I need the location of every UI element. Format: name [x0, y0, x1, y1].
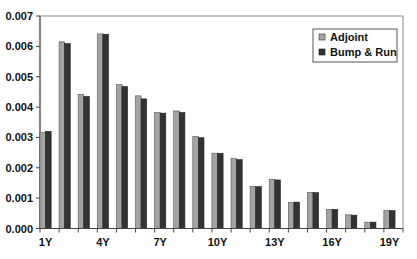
legend: Adjoint Bump & Run — [313, 29, 397, 62]
bar-chart: 0.0000.0010.0020.0030.0040.0050.0060.007… — [0, 0, 417, 259]
bar-bump-run — [275, 180, 281, 229]
bar-adjoint — [174, 111, 180, 228]
y-tick-label: 0.003 — [5, 131, 33, 143]
y-tick-label: 0.001 — [5, 192, 33, 204]
y-tick-label: 0.005 — [5, 71, 33, 83]
x-tick-label: 7Y — [153, 236, 167, 248]
legend-label-adjoint: Adjoint — [330, 31, 368, 43]
legend-swatch-adjoint — [319, 34, 325, 40]
bar-adjoint — [269, 179, 275, 228]
bar-adjoint — [307, 192, 313, 228]
bar-adjoint — [327, 209, 333, 228]
bar-adjoint — [40, 133, 46, 229]
x-tick-label: 13Y — [265, 236, 285, 248]
x-tick-label: 4Y — [96, 236, 110, 248]
bar-adjoint — [365, 222, 371, 228]
x-tick-label: 19Y — [380, 236, 400, 248]
bar-bump-run — [294, 202, 300, 228]
bar-bump-run — [198, 138, 204, 229]
bar-adjoint — [155, 113, 161, 229]
legend-swatch-bump-run — [319, 49, 325, 55]
x-axis: 1Y4Y7Y10Y13Y16Y19Y — [39, 229, 403, 249]
bar-bump-run — [218, 153, 224, 228]
bar-bump-run — [389, 211, 395, 229]
bar-adjoint — [212, 153, 218, 228]
bar-adjoint — [78, 94, 84, 228]
x-tick-label: 16Y — [322, 236, 342, 248]
bar-bump-run — [332, 209, 338, 228]
bar-adjoint — [135, 96, 141, 229]
y-tick-label: 0.007 — [5, 10, 33, 22]
bar-bump-run — [351, 215, 357, 228]
legend-label-bump-run: Bump & Run — [330, 46, 397, 58]
bar-adjoint — [250, 186, 256, 228]
bar-bump-run — [46, 131, 52, 228]
y-tick-label: 0.004 — [5, 101, 33, 113]
bar-bump-run — [103, 34, 109, 228]
bar-bump-run — [160, 113, 166, 228]
bar-adjoint — [231, 159, 237, 229]
bar-adjoint — [59, 42, 65, 229]
y-tick-label: 0.000 — [5, 223, 33, 235]
y-tick-label: 0.002 — [5, 162, 33, 174]
bar-adjoint — [116, 85, 122, 229]
bar-adjoint — [193, 137, 199, 229]
bar-bump-run — [122, 86, 128, 228]
x-tick-label: 10Y — [208, 236, 228, 248]
bar-adjoint — [346, 215, 352, 229]
bar-bump-run — [313, 193, 319, 229]
bar-bump-run — [65, 44, 71, 229]
bar-adjoint — [97, 34, 103, 229]
bar-adjoint — [384, 211, 390, 229]
bar-bump-run — [237, 160, 243, 229]
bar-bump-run — [370, 222, 376, 228]
x-tick-label: 1Y — [39, 236, 53, 248]
bar-bump-run — [179, 113, 185, 229]
bar-bump-run — [141, 99, 147, 229]
y-tick-label: 0.006 — [5, 40, 33, 52]
y-axis: 0.0000.0010.0020.0030.0040.0050.0060.007 — [5, 10, 40, 235]
bar-adjoint — [288, 202, 294, 228]
bar-bump-run — [84, 96, 90, 228]
bar-bump-run — [256, 187, 262, 229]
